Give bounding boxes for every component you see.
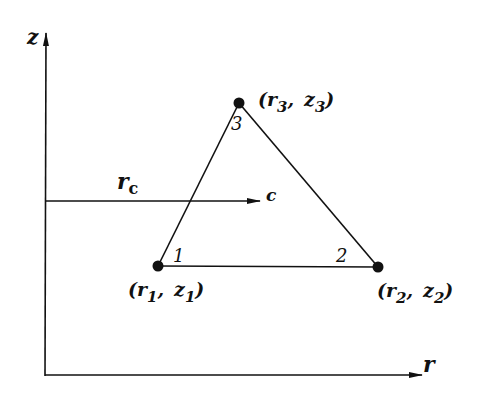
z-axis-label: z: [26, 25, 39, 49]
node-3-coordinates: (r3,z3): [258, 88, 334, 116]
node-2-number: 2: [335, 245, 347, 266]
node-3-number: 3: [231, 113, 242, 134]
node-1-coordinates: (r1,z1): [128, 278, 204, 306]
r-axis-label: r: [423, 351, 436, 377]
node-2-dot: [373, 262, 384, 273]
z-axis: [45, 33, 46, 376]
rc-label-sub: c: [129, 179, 139, 198]
node-1-number: 1: [173, 245, 184, 266]
node-1-dot: [153, 261, 164, 272]
node-2-coordinates: (r2,z2): [377, 279, 453, 307]
centroid-label: c: [266, 185, 277, 205]
node-3-dot: [234, 98, 245, 109]
diagram-canvas: z r rc c 1 2 3 (r3,z3) (r1,z1) (r2,z2): [0, 0, 495, 397]
rc-label: rc: [117, 168, 139, 198]
